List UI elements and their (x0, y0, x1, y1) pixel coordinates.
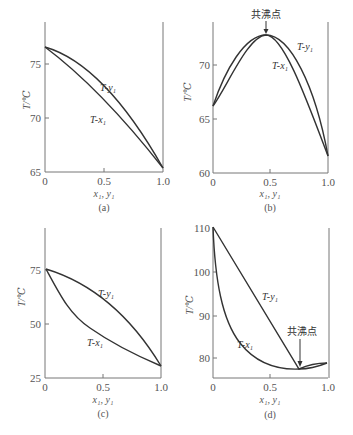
x-tick: 1.0 (321, 176, 335, 188)
x-axis-label: x₁, y₁ (259, 394, 281, 405)
azeotrope-label: 共沸点 (251, 8, 281, 20)
y-tick: 50 (30, 318, 42, 330)
x-tick: 0 (210, 381, 216, 393)
y-tick: 70 (30, 112, 42, 124)
y-tick: 25 (30, 372, 42, 384)
x-tick: 0 (42, 381, 48, 393)
azeotrope-label: 共沸点 (287, 325, 317, 337)
curve-label-T-y1: T-y₁ (297, 41, 313, 52)
y-tick: 70 (199, 59, 211, 71)
y-tick: 60 (199, 167, 211, 179)
curve-label-T-x1: T-x₁ (237, 339, 253, 350)
x-axis-label: x₁, y₁ (259, 188, 281, 199)
curve-label-T-y1: T-y₁ (100, 82, 116, 93)
x-tick: 0.5 (263, 176, 277, 188)
y-tick: 75 (30, 58, 42, 70)
y-tick: 90 (199, 310, 211, 322)
phase-diagram-figure: 75 70 65 0 0.5 1.0 x₁, y₁ (a) T/℃ T-y₁ T… (0, 0, 353, 435)
curve-T-y1 (46, 269, 161, 366)
y-axis-label: T/℃ (21, 90, 32, 110)
y-axis-label: T/℃ (16, 287, 27, 307)
panel-caption: (a) (98, 202, 109, 214)
y-tick: 65 (199, 113, 211, 125)
x-tick: 1.0 (321, 381, 335, 393)
y-axis-label: T/℃ (182, 82, 193, 102)
curve-T-x1 (46, 269, 161, 366)
panel-caption: (d) (264, 409, 276, 421)
panel-caption: (c) (97, 408, 108, 420)
x-tick: 1.0 (156, 175, 170, 187)
x-axis-label: x₁, y₁ (92, 394, 114, 405)
panel-a: 75 70 65 0 0.5 1.0 x₁, y₁ (a) T/℃ T-y₁ T… (21, 22, 170, 214)
arrow-head-icon (264, 29, 269, 34)
panel-caption: (b) (264, 202, 276, 214)
x-tick: 0.5 (97, 175, 111, 187)
y-tick: 80 (199, 352, 211, 364)
x-tick: 1.0 (154, 381, 168, 393)
curve-label-T-y1: T-y₁ (262, 291, 278, 302)
x-tick: 0 (210, 176, 216, 188)
panel-b: 70 65 60 0 0.5 1.0 x₁, y₁ (b) T/℃ 共沸点 T-… (182, 8, 335, 214)
curve-T-y1 (213, 35, 328, 156)
y-tick: 100 (194, 266, 211, 278)
curve-T-x1 (45, 47, 163, 168)
curve-label-T-x1: T-x₁ (90, 114, 106, 125)
x-tick: 0 (42, 175, 48, 187)
y-tick: 65 (30, 166, 42, 178)
x-axis-label: x₁, y₁ (93, 188, 115, 199)
curve-T-x1 (213, 35, 328, 156)
curve-label-T-x1: T-x₁ (87, 337, 103, 348)
y-axis-label: T/℃ (184, 295, 195, 315)
curve-T-y1 (45, 47, 163, 168)
panel-c: 75 50 25 0 0.5 1.0 x₁, y₁ (c) T/℃ T-y₁ T… (16, 228, 168, 420)
y-tick: 75 (30, 264, 42, 276)
x-tick: 0.5 (96, 381, 110, 393)
arrow-head-icon (298, 361, 303, 367)
curve-label-T-x1: T-x₁ (272, 60, 288, 71)
curve-label-T-y1: T-y₁ (98, 288, 114, 299)
x-tick: 0.5 (263, 381, 277, 393)
y-tick: 110 (194, 222, 211, 234)
panel-d: 110 100 90 80 0 0.5 1.0 x₁, y₁ (d) T/℃ 共… (184, 222, 335, 421)
